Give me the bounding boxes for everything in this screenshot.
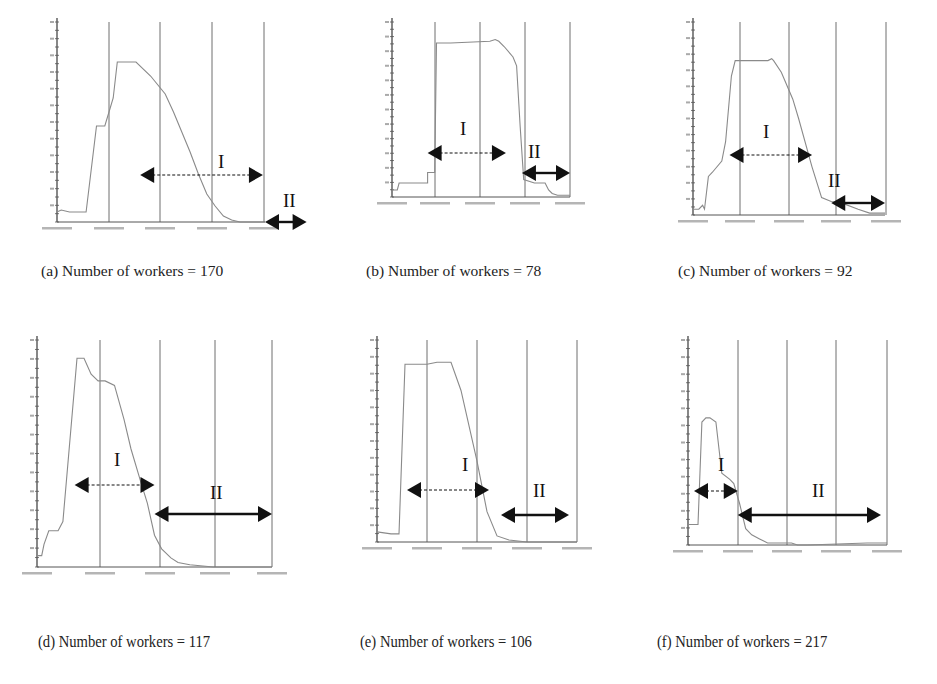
y-tick-label [686,118,690,120]
phase-i-label: I [718,454,724,475]
x-tick-label [22,572,52,575]
plots-canvas: IIIIIIIIIIIIIIIIII [0,0,937,684]
y-tick-label [370,373,374,375]
y-tick-label [681,407,685,409]
y-tick-label [681,424,685,426]
y-tick-label [681,339,685,341]
y-tick-label [50,21,54,23]
y-tick-label [30,339,34,341]
y-tick-label [50,71,54,73]
y-tick-label [385,50,389,52]
phase-i-arrow [407,482,489,498]
y-tick-label [370,507,374,509]
y-tick-label [50,171,54,173]
y-tick-label [370,339,374,341]
panel-f: III [673,336,902,553]
arrowhead-right-icon [249,167,263,183]
phase-ii-arrow [738,507,881,523]
y-tick-label [50,121,54,123]
arrowhead-right-icon [492,145,506,161]
x-tick-label [725,220,755,223]
y-tick-label [370,474,374,476]
y-tick-label [385,79,389,81]
x-tick-label [197,227,227,230]
arrowhead-left-icon [140,167,154,183]
x-tick-label [562,547,592,550]
phase-i-label: I [460,118,466,139]
y-tick-label [50,38,54,40]
y-tick-label [686,166,690,168]
arrowhead-left-icon [155,506,169,522]
y-tick-label [30,547,34,549]
y-tick-label [30,471,34,473]
y-tick-label [686,134,690,136]
y-tick-label [385,123,389,125]
x-tick-label [420,202,450,205]
x-tick-label [673,550,703,553]
phase-i-label: I [114,449,120,470]
x-tick-label [200,572,230,575]
caption-b: (b) Number of workers = 78 [366,262,541,280]
y-tick-label [30,528,34,530]
phase-i-arrow [729,147,812,163]
y-tick-label [30,358,34,360]
y-tick-label [30,490,34,492]
x-tick-label [821,550,851,553]
arrowhead-left-icon [75,477,89,493]
phase-i-arrow [75,477,155,493]
caption-c: (c) Number of workers = 92 [678,262,852,280]
data-curve [57,62,265,222]
phase-ii-arrow [522,165,570,181]
y-tick-label [681,442,685,444]
phase-ii-label: II [533,480,546,501]
y-tick-label [50,154,54,156]
y-tick-label [385,36,389,38]
phase-ii-label: II [283,190,296,211]
y-tick-label [686,85,690,87]
y-tick-label [385,167,389,169]
arrowhead-right-icon [293,214,307,230]
x-tick-label [774,220,804,223]
y-tick-label [385,152,389,154]
y-tick-label [385,138,389,140]
x-tick-label [555,202,585,205]
y-tick-label [30,415,34,417]
x-tick-label [85,572,115,575]
panel-b: III [377,18,585,205]
x-tick-label [42,227,72,230]
y-tick-label [50,54,54,56]
y-tick-label [370,440,374,442]
y-tick-label [370,356,374,358]
panel-e: III [362,336,592,550]
data-curve [37,358,272,567]
phase-ii-arrow [155,506,273,522]
x-tick-label [462,547,492,550]
y-tick-label [30,453,34,455]
y-tick-label [370,524,374,526]
arrowhead-left-icon [831,195,845,211]
y-tick-label [681,493,685,495]
y-tick-label [30,377,34,379]
x-tick-label [678,220,708,223]
arrowhead-right-icon [871,195,885,211]
x-tick-label [772,550,802,553]
arrowhead-right-icon [556,165,570,181]
x-tick-label [412,547,442,550]
arrowhead-right-icon [867,507,881,523]
arrowhead-left-icon [501,507,515,523]
x-tick-label [872,550,902,553]
phase-ii-label: II [210,482,223,503]
caption-a: (a) Number of workers = 170 [41,262,223,280]
arrowhead-right-icon [258,506,272,522]
arrowhead-left-icon [407,482,421,498]
x-tick-label [145,572,175,575]
x-tick-label [94,227,124,230]
x-tick-label [510,202,540,205]
phase-ii-label: II [828,170,841,191]
y-tick-label [370,390,374,392]
arrowhead-left-icon [694,483,708,499]
caption-d: (d) Number of workers = 117 [38,632,210,652]
y-tick-label [686,182,690,184]
y-tick-label [686,21,690,23]
caption-f: (f) Number of workers = 217 [657,632,827,652]
